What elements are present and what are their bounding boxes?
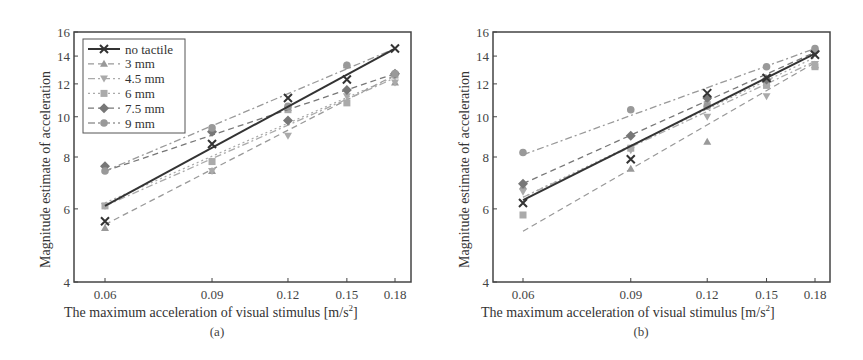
y-tick-label: 4 <box>483 275 490 290</box>
x-tick-label: 0.09 <box>201 287 224 300</box>
x-tick-label: 0.06 <box>512 287 535 300</box>
x-marker-icon <box>519 199 527 207</box>
y-axis-label-a: Magnitude estimate of acceleration <box>38 71 54 268</box>
x-axis-label-end: ] <box>353 305 358 320</box>
series-9-mm <box>519 45 819 157</box>
y-tick-label: 8 <box>483 150 490 165</box>
legend-label: 9 mm <box>125 116 155 131</box>
square-marker-icon <box>209 158 216 165</box>
circle-marker-icon <box>101 167 109 175</box>
chart-b-plot: 468101214160.060.090.120.150.18 <box>431 0 863 300</box>
legend-label: no tactile <box>125 42 173 57</box>
x-tick-label: 0.15 <box>755 287 778 300</box>
x-marker-icon <box>284 94 292 102</box>
y-tick-label: 6 <box>483 202 490 217</box>
legend-label: 4.5 mm <box>125 71 165 86</box>
triangle-down-marker-icon <box>703 114 711 121</box>
circle-marker-icon <box>343 62 351 70</box>
y-tick-label: 4 <box>64 275 71 290</box>
circle-marker-icon <box>391 70 399 78</box>
triangle-up-marker-icon <box>703 138 711 145</box>
x-tick-label: 0.18 <box>804 287 827 300</box>
plot-frame <box>493 32 830 282</box>
circle-marker-icon <box>208 124 216 132</box>
x-tick-label: 0.09 <box>619 287 642 300</box>
legend-label: 6 mm <box>125 86 155 101</box>
y-axis-label-b: Magnitude estimate of acceleration <box>457 71 473 268</box>
chart-panel-a: 468101214160.060.090.120.150.18no tactil… <box>0 0 432 360</box>
x-marker-icon <box>391 45 399 53</box>
caption-a: (a) <box>22 324 412 340</box>
x-axis-label-b: The maximum acceleration of visual stimu… <box>481 303 775 321</box>
series-7-5-mm <box>518 46 820 189</box>
y-tick-label: 16 <box>57 25 71 40</box>
circle-marker-icon <box>627 106 635 114</box>
x-axis-label-text: The maximum acceleration of visual stimu… <box>481 305 766 320</box>
x-axis-label-end: ] <box>770 305 775 320</box>
x-tick-label: 0.18 <box>384 287 407 300</box>
diamond-marker-icon <box>518 179 528 189</box>
x-tick-label: 0.12 <box>277 287 300 300</box>
x-tick-label: 0.15 <box>335 287 358 300</box>
legend-label: 7.5 mm <box>125 101 165 116</box>
square-marker-icon <box>812 63 819 70</box>
y-tick-label: 10 <box>476 110 489 125</box>
circle-marker-icon <box>100 119 108 127</box>
series-3-mm <box>519 61 819 231</box>
legend-label: 3 mm <box>125 56 155 71</box>
series-4-5-mm <box>519 61 819 197</box>
square-marker-icon <box>101 90 108 97</box>
y-tick-label: 14 <box>57 49 71 64</box>
chart-panel-b: 468101214160.060.090.120.150.18 Magnitud… <box>431 0 863 360</box>
triangle-down-marker-icon <box>763 93 771 100</box>
y-tick-label: 12 <box>57 77 70 92</box>
triangle-down-marker-icon <box>284 133 292 140</box>
chart-a-plot: 468101214160.060.090.120.150.18no tactil… <box>0 0 432 300</box>
y-tick-label: 14 <box>476 49 490 64</box>
series-6-mm <box>520 57 819 218</box>
circle-marker-icon <box>519 149 527 157</box>
y-tick-label: 8 <box>64 150 71 165</box>
x-axis-label-a: The maximum acceleration of visual stimu… <box>64 303 358 321</box>
diamond-marker-icon <box>283 115 293 125</box>
triangle-down-marker-icon <box>519 189 527 196</box>
y-tick-label: 16 <box>476 25 490 40</box>
triangle-up-marker-icon <box>627 165 635 172</box>
square-marker-icon <box>343 99 350 106</box>
x-axis-label-text: The maximum acceleration of visual stimu… <box>64 305 349 320</box>
legend: no tactile3 mm4.5 mm6 mm7.5 mm9 mm <box>83 39 185 133</box>
square-marker-icon <box>520 211 527 218</box>
y-tick-label: 10 <box>57 110 70 125</box>
y-tick-label: 6 <box>64 202 71 217</box>
x-tick-label: 0.06 <box>94 287 117 300</box>
y-tick-label: 12 <box>476 77 489 92</box>
caption-b: (b) <box>441 324 841 340</box>
circle-marker-icon <box>763 63 771 71</box>
x-marker-icon <box>343 75 351 83</box>
diamond-marker-icon <box>626 131 636 141</box>
x-marker-icon <box>627 155 635 163</box>
x-tick-label: 0.12 <box>696 287 719 300</box>
